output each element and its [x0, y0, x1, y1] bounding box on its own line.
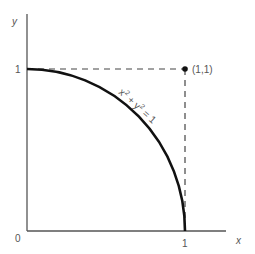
svg-text:x2 + y2 = 1: x2 + y2 = 1	[117, 86, 160, 126]
x-axis-label: x	[235, 235, 242, 246]
equation-label: x2 + y2 = 1	[117, 86, 160, 126]
x-tick-label: 1	[182, 238, 188, 249]
y-tick-label: 1	[15, 64, 21, 75]
point-label: (1,1)	[192, 64, 213, 75]
point-marker	[182, 66, 188, 72]
quarter-circle-curve	[27, 69, 185, 231]
origin-label: 0	[15, 233, 21, 244]
unit-circle-diagram: y 1 0 1 x (1,1) x2 + y2 = 1	[0, 0, 255, 254]
y-axis-label: y	[11, 16, 18, 27]
